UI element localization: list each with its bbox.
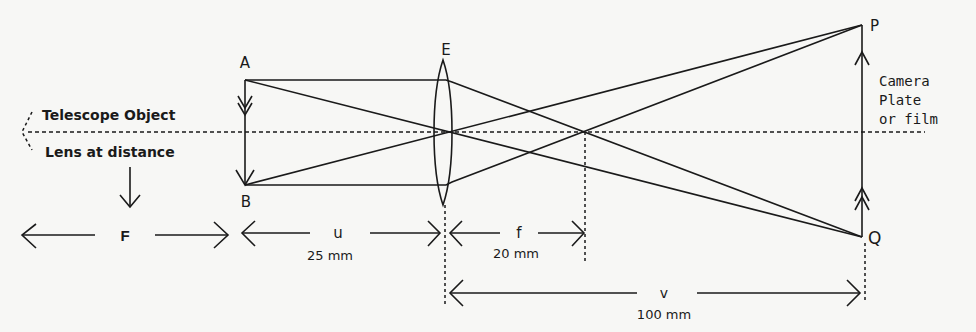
v-value: 100 mm: [637, 307, 691, 322]
image-pq: [855, 25, 869, 237]
point-a-label: A: [240, 54, 251, 72]
u-value: 25 mm: [307, 248, 353, 263]
optics-diagram: F u 25 mm f 20 mm v 100 mm A B E P Q Tel…: [0, 0, 976, 332]
dimension-focal-length: f 20 mm: [450, 221, 584, 261]
dimension-f-distance: F: [22, 222, 228, 248]
f-symbol: f: [516, 224, 522, 242]
telescope-object-label: Telescope Object: [42, 107, 176, 123]
lens-at-distance-label: Lens at distance: [45, 144, 175, 160]
dimension-f-label: F: [120, 227, 129, 244]
point-q-label: Q: [868, 228, 881, 248]
camera-label-line2: Plate: [879, 92, 921, 108]
diagram-canvas: F u 25 mm f 20 mm v 100 mm A B E P Q Tel…: [0, 0, 976, 332]
camera-label-line1: Camera: [879, 73, 930, 89]
camera-label-line3: or film: [879, 111, 938, 127]
down-arrow: [120, 167, 140, 207]
f-value: 20 mm: [493, 246, 539, 261]
point-e-label: E: [441, 41, 450, 59]
light-rays: [245, 25, 862, 237]
point-b-label: B: [241, 193, 251, 211]
dimension-v: v 100 mm: [450, 280, 860, 322]
v-symbol: v: [660, 285, 668, 301]
dimension-u: u 25 mm: [242, 221, 440, 263]
u-symbol: u: [333, 224, 343, 242]
point-p-label: P: [870, 17, 879, 35]
